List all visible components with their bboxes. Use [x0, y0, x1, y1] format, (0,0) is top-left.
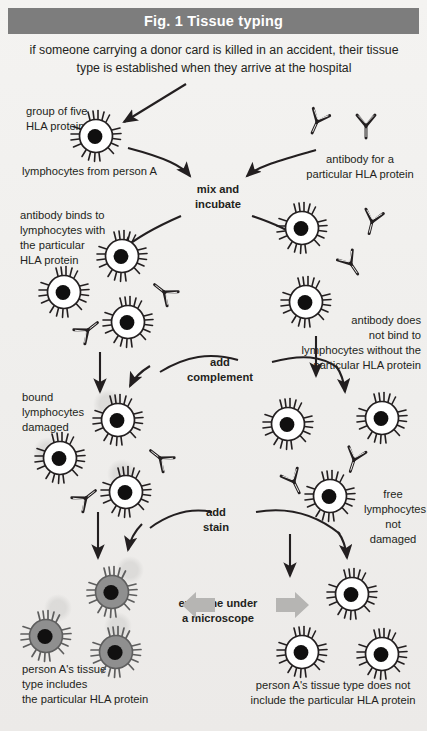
unstained-cell-2: [277, 627, 327, 678]
antibody-top-2: [357, 115, 375, 138]
arrow-antibody-to-mix: [247, 150, 316, 176]
lymphocyte-person-a: [71, 111, 121, 162]
unstained-cell-1: [327, 569, 377, 620]
free-cell-5: [305, 471, 355, 522]
arrow-complement-to-right: [336, 366, 345, 392]
antibody-after-1: [342, 447, 366, 474]
free-cell-4: [357, 393, 407, 444]
arrow-complement-curve-left: [160, 356, 238, 372]
figure-panel: Fig. 1 Tissue typing if someone carrying…: [0, 0, 427, 731]
antibody-bridge-1: [149, 278, 178, 306]
arrow-stain-curve-right: [256, 510, 340, 534]
arrow-cell-to-mix: [128, 148, 190, 176]
arrow-complement-to-left: [130, 366, 150, 386]
unstained-cell-3: [357, 629, 407, 680]
diagram-graphics: [0, 0, 427, 731]
arrow-stain-to-left: [128, 524, 142, 550]
antibody-free-2: [337, 250, 365, 279]
arrow-complement-curve-right: [272, 357, 338, 368]
bound-cell-3: [103, 297, 153, 348]
free-cell-2: [281, 277, 331, 328]
arrow-stain-to-right: [338, 532, 347, 558]
antibody-top-1: [304, 108, 330, 136]
free-cell-3: [263, 399, 313, 450]
block-arrow-left-icon: [182, 592, 215, 618]
antibody-damaged-1: [145, 444, 174, 472]
block-arrow-right-icon: [276, 592, 309, 618]
antibody-bridge-2: [74, 316, 103, 344]
arrow-caption-to-cell: [124, 84, 186, 122]
antibody-damaged-2: [72, 484, 101, 512]
antibody-free-1: [360, 209, 383, 236]
bound-cell-2: [39, 267, 89, 318]
antibody-after-2: [281, 468, 307, 497]
arrow-stain-curve-left: [150, 511, 212, 528]
